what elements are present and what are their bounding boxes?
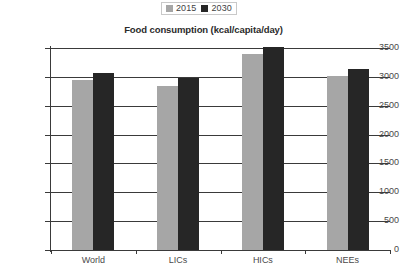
x-axis-tick bbox=[221, 250, 222, 254]
bar-chart: 2015 2030 Food consumption (kcal/capita/… bbox=[0, 0, 407, 274]
bar-group bbox=[51, 48, 136, 250]
legend-item-2030: 2030 bbox=[201, 4, 231, 13]
bar-world-2015 bbox=[72, 80, 93, 250]
x-axis-label-lics: LICs bbox=[138, 255, 218, 266]
bar-hics-2015 bbox=[242, 54, 263, 250]
chart-legend: 2015 2030 bbox=[161, 2, 237, 15]
bar-lics-2015 bbox=[157, 86, 178, 250]
x-axis-tick-origin bbox=[51, 250, 52, 254]
x-axis-label-hics: HICs bbox=[223, 255, 303, 266]
legend-label-2015: 2015 bbox=[176, 4, 196, 13]
legend-swatch-icon-2015 bbox=[166, 5, 173, 12]
bar-group bbox=[221, 48, 306, 250]
bar-world-2030 bbox=[93, 73, 114, 250]
legend-label-2030: 2030 bbox=[211, 4, 231, 13]
bar-hics-2030 bbox=[263, 47, 284, 250]
legend-swatch-icon-2030 bbox=[201, 5, 208, 12]
bar-lics-2030 bbox=[178, 78, 199, 250]
bars-layer bbox=[51, 48, 390, 250]
x-axis-label-nees: NEEs bbox=[308, 255, 388, 266]
x-axis-tick bbox=[305, 250, 306, 254]
x-axis-tick bbox=[136, 250, 137, 254]
legend-item-2015: 2015 bbox=[166, 4, 196, 13]
x-axis-label-world: World bbox=[53, 255, 133, 266]
chart-title: Food consumption (kcal/capita/day) bbox=[0, 24, 407, 35]
bar-group bbox=[136, 48, 221, 250]
bar-nees-2030 bbox=[348, 69, 369, 250]
x-axis-tick bbox=[390, 250, 391, 254]
bar-group bbox=[305, 48, 390, 250]
bar-nees-2015 bbox=[327, 76, 348, 250]
